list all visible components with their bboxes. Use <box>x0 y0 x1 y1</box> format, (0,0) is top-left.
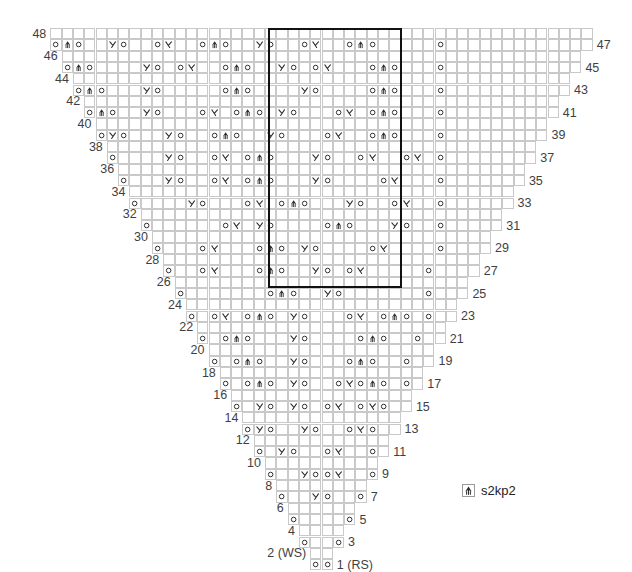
chart-cell <box>310 390 321 401</box>
chart-cell <box>310 231 321 242</box>
chart-cell <box>423 51 434 62</box>
chart-cell <box>129 73 140 84</box>
chart-cell <box>209 152 220 163</box>
chart-cell <box>288 243 299 254</box>
chart-cell <box>265 209 276 220</box>
chart-cell <box>344 277 355 288</box>
chart-cell <box>401 186 412 197</box>
yarn-over-icon <box>368 469 377 480</box>
chart-cell <box>355 96 366 107</box>
chart-cell <box>367 107 378 118</box>
chart-cell <box>254 401 265 412</box>
chart-cell <box>141 186 152 197</box>
chart-cell <box>186 118 197 129</box>
chart-cell <box>276 243 287 254</box>
yarn-over-icon <box>243 311 252 322</box>
chart-cell <box>152 118 163 129</box>
chart-cell <box>401 62 412 73</box>
yarn-over-icon <box>356 333 365 344</box>
yarn-over-icon <box>368 446 377 457</box>
chart-cell <box>457 62 468 73</box>
chart-cell <box>299 175 310 186</box>
chart-cell <box>299 299 310 310</box>
yarn-over-icon <box>85 62 94 73</box>
chart-cell <box>231 96 242 107</box>
chart-cell <box>322 39 333 50</box>
chart-cell <box>129 175 140 186</box>
chart-cell <box>276 299 287 310</box>
yarn-over-icon <box>255 107 264 118</box>
chart-cell <box>209 231 220 242</box>
chart-cell <box>457 198 468 209</box>
chart-cell <box>299 390 310 401</box>
chart-cell <box>412 198 423 209</box>
chart-cell <box>355 469 366 480</box>
chart-cell <box>389 311 400 322</box>
chart-cell <box>310 435 321 446</box>
chart-cell <box>468 85 479 96</box>
chart-cell <box>265 51 276 62</box>
chart-cell <box>423 231 434 242</box>
chart-cell <box>389 118 400 129</box>
chart-cell <box>435 96 446 107</box>
chart-cell <box>378 288 389 299</box>
chart-cell <box>118 130 129 141</box>
chart-cell <box>536 73 547 84</box>
chart-cell <box>536 118 547 129</box>
chart-cell <box>310 118 321 129</box>
yarn-over-icon <box>390 107 399 118</box>
yarn-over-icon <box>402 311 411 322</box>
chart-cell <box>129 107 140 118</box>
chart-cell <box>141 73 152 84</box>
chart-cell <box>288 231 299 242</box>
ssk-decrease-icon <box>221 152 230 163</box>
row-number-left-48: 48 <box>0 28 46 41</box>
chart-cell <box>389 424 400 435</box>
chart-cell <box>367 254 378 265</box>
chart-cell <box>355 446 366 457</box>
chart-cell <box>514 51 525 62</box>
chart-cell <box>276 390 287 401</box>
chart-cell <box>310 548 321 559</box>
chart-cell <box>412 356 423 367</box>
chart-cell <box>276 51 287 62</box>
chart-cell <box>299 198 310 209</box>
s2kp2-decrease-icon <box>356 356 365 367</box>
chart-cell <box>322 412 333 423</box>
chart-cell <box>367 73 378 84</box>
chart-cell <box>435 265 446 276</box>
chart-cell <box>548 96 559 107</box>
ssk-decrease-icon <box>221 175 230 186</box>
yarn-over-icon <box>436 198 445 209</box>
chart-cell <box>231 344 242 355</box>
chart-cell <box>231 299 242 310</box>
chart-cell <box>457 130 468 141</box>
chart-cell <box>378 152 389 163</box>
s2kp2-decrease-icon <box>255 152 264 163</box>
chart-cell <box>197 28 208 39</box>
chart-cell <box>412 96 423 107</box>
chart-cell <box>310 164 321 175</box>
chart-cell <box>186 130 197 141</box>
k2tog-decrease-icon <box>390 220 399 231</box>
yarn-over-icon <box>356 378 365 389</box>
yarn-over-icon <box>402 152 411 163</box>
chart-cell <box>242 39 253 50</box>
k2tog-decrease-icon <box>300 424 309 435</box>
chart-cell <box>186 209 197 220</box>
yarn-over-icon <box>289 288 298 299</box>
k2tog-decrease-icon <box>300 85 309 96</box>
chart-cell <box>333 96 344 107</box>
yarn-over-icon <box>176 130 185 141</box>
chart-cell <box>423 39 434 50</box>
chart-cell <box>367 164 378 175</box>
chart-cell <box>401 73 412 84</box>
chart-cell <box>118 28 129 39</box>
chart-cell <box>412 152 423 163</box>
chart-cell <box>299 186 310 197</box>
chart-cell <box>242 356 253 367</box>
chart-cell <box>231 367 242 378</box>
chart-cell <box>502 152 513 163</box>
chart-cell <box>288 277 299 288</box>
chart-cell <box>197 186 208 197</box>
